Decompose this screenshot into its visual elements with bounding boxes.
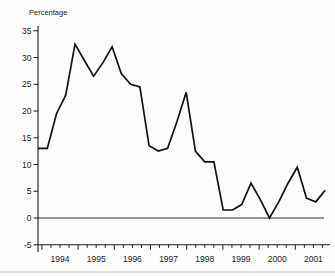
- year-label: 1996: [123, 254, 142, 264]
- y-tick-label: 25: [22, 79, 32, 89]
- x-axis-year-labels: 19941995199619971998199920002001: [51, 254, 324, 264]
- y-tick-label: 35: [22, 26, 32, 36]
- line-chart-canvas: Percentage 35302520151050-5 199419951996…: [0, 0, 335, 276]
- year-label: 1997: [159, 254, 178, 264]
- y-tick-label: -5: [24, 240, 32, 250]
- year-label: 1995: [87, 254, 106, 264]
- year-label: 2000: [268, 254, 287, 264]
- data-series-line: [38, 44, 325, 218]
- year-label: 2001: [304, 254, 323, 264]
- y-tick-label: 15: [22, 133, 32, 143]
- year-label: 1994: [51, 254, 70, 264]
- y-tick-label: 30: [22, 53, 32, 63]
- y-tick-label: 5: [27, 186, 32, 196]
- y-tick-label: 20: [22, 106, 32, 116]
- y-axis-ticks: 35302520151050-5: [22, 26, 38, 250]
- chart-figure: Percentage 35302520151050-5 199419951996…: [0, 0, 335, 276]
- y-tick-label: 0: [27, 213, 32, 223]
- y-axis-title: Percentage: [29, 8, 67, 17]
- x-axis-ticks: [42, 245, 323, 250]
- year-label: 1999: [232, 254, 251, 264]
- y-tick-label: 10: [22, 160, 32, 170]
- year-label: 1998: [195, 254, 214, 264]
